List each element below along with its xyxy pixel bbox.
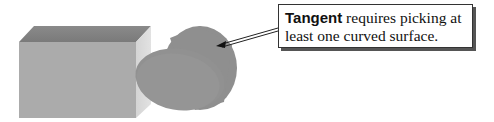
callout-box: Tangent requires picking at least one cu… bbox=[278, 4, 473, 48]
callout-bold-term: Tangent bbox=[285, 9, 342, 26]
box-shape bbox=[19, 26, 151, 118]
box-front-face bbox=[19, 42, 136, 118]
box-top-face bbox=[19, 26, 151, 42]
